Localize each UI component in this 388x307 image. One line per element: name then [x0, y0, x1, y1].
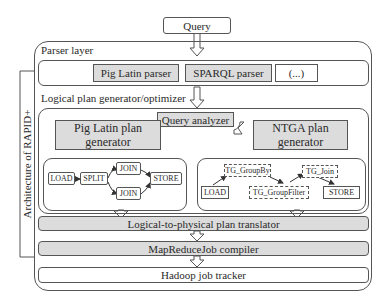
ntga-node-load: LOAD — [201, 186, 229, 199]
pig-node-join-2: JOIN — [116, 187, 141, 200]
node-label: TG_GroupFilter — [253, 188, 305, 197]
query-analyzer: Query analyzer — [157, 112, 234, 127]
stage-label: MapReduceJob compiler — [148, 243, 258, 255]
pig-latin-parser: Pig Latin parser — [93, 64, 179, 82]
architecture-label: Architecture of RAPID+ — [21, 110, 33, 219]
logical-to-physical-translator: Logical-to-physical plan translator — [38, 216, 369, 231]
ntga-node-store: STORE — [323, 186, 360, 199]
mapreduce-job-compiler: MapReduceJob compiler — [38, 241, 369, 256]
other-parser: (...) — [275, 64, 318, 82]
pig-node-store: STORE — [150, 172, 182, 185]
node-label: LOAD — [50, 174, 72, 183]
pig-latin-plan-generator-label: Pig Latin plan generator — [62, 121, 154, 149]
hadoop-job-tracker: Hadoop job tracker — [38, 267, 369, 283]
sparql-parser: SPARQL parser — [185, 64, 272, 82]
ntga-node-tg-join: TG_Join — [302, 165, 338, 178]
ntga-node-tg-groupby: TG_GroupBy — [224, 164, 271, 177]
query-analyzer-label: Query analyzer — [162, 114, 230, 126]
ntga-plan-generator-label: NTGA plan generator — [268, 121, 333, 149]
query-label: Query — [183, 20, 211, 32]
node-label: TG_Join — [306, 167, 334, 176]
node-label: LOAD — [204, 188, 226, 197]
sparql-parser-label: SPARQL parser — [193, 67, 263, 79]
stage-label: Logical-to-physical plan translator — [127, 218, 279, 230]
logical-layer-title: Logical plan generator/optimizer — [41, 92, 186, 104]
node-label: TG_GroupBy — [225, 166, 269, 175]
node-label: STORE — [153, 174, 178, 183]
ntga-node-tg-groupfilter: TG_GroupFilter — [249, 186, 309, 199]
pig-node-join-1: JOIN — [116, 162, 141, 175]
node-label: STORE — [329, 188, 354, 197]
query-box: Query — [163, 17, 231, 34]
node-label: JOIN — [120, 189, 137, 198]
node-label: JOIN — [120, 164, 137, 173]
ntga-plan-generator: NTGA plan generator — [253, 120, 348, 150]
parser-layer-title: Parser layer — [41, 44, 93, 56]
pig-node-load: LOAD — [48, 172, 75, 185]
pig-latin-parser-label: Pig Latin parser — [101, 67, 171, 79]
node-label: SPLIT — [83, 174, 104, 183]
other-parser-label: (...) — [289, 67, 305, 79]
pig-node-split: SPLIT — [80, 172, 108, 185]
ntga-plan-graph — [197, 158, 366, 211]
stage-label: Hadoop job tracker — [161, 269, 246, 281]
pig-latin-plan-generator: Pig Latin plan generator — [55, 120, 161, 150]
